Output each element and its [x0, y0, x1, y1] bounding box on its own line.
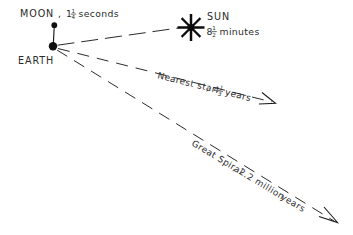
earth-sun-line: [58, 28, 182, 46]
nearest-star-arrowhead: [259, 93, 276, 105]
earth-label-name: EARTH: [18, 55, 54, 66]
moon-marker-dot: [51, 22, 57, 28]
light-travel-time-diagram: MOON , 1 1 4 seconds EARTH SUN 8 1 2 min…: [0, 0, 353, 235]
sun-label-fraction-denominator: 2: [212, 32, 216, 38]
moon-label-unit: seconds: [79, 8, 119, 19]
sun-label-unit: minutes: [220, 26, 260, 37]
moon-label-separator: ,: [58, 8, 61, 19]
great-spiral-label-group: Great Spiral , 2.2 million years: [190, 138, 307, 214]
moon-label-name: MOON: [20, 8, 54, 19]
great-spiral-label-unit: years: [279, 192, 307, 214]
moon-label-fraction-numerator: 1: [72, 8, 76, 14]
great-spiral-label-name: Great Spiral: [190, 138, 245, 177]
great-spiral-label-value: 2.2 million: [237, 166, 286, 201]
moon-label-group: MOON , 1 1 4 seconds: [20, 8, 119, 21]
great-spiral-arrowhead: [319, 207, 338, 223]
sun-label-group: SUN 8 1 2 minutes: [207, 11, 260, 38]
nearest-star-label-unit: years: [224, 87, 252, 103]
moon-label-fraction-denominator: 4: [72, 14, 76, 20]
sun-label-fraction-numerator: 1: [212, 25, 216, 31]
earth-marker-dot: [49, 42, 57, 50]
nearest-star-label-group: Nearest star , 4 1 3 years: [156, 69, 252, 104]
diagram-canvas: MOON , 1 1 4 seconds EARTH SUN 8 1 2 min…: [0, 0, 353, 235]
sun-marker-starburst: [178, 14, 205, 41]
nearest-star-label-fraction-denominator: 3: [217, 91, 222, 98]
sun-label-name: SUN: [207, 11, 230, 22]
great-spiral-ray: [57, 50, 334, 221]
